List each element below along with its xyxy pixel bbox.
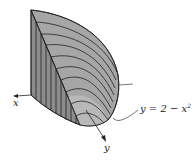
curve-equation-exponent: 2 [187,102,191,109]
x-axis-label: x [13,98,19,108]
y-axis-label: y [104,143,110,153]
z-axis-stub [119,84,133,85]
y-axis-arrow-icon [101,135,106,142]
x-axis [16,95,31,96]
solid-diagram [0,0,195,163]
curve-equation-label: y = 2 − x2 [140,103,191,114]
callout-leader [113,110,138,120]
curve-equation-main: y = 2 − x [140,103,187,114]
